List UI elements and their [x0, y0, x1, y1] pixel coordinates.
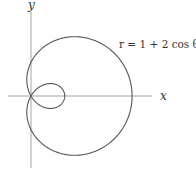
equation-label: r = 1 + 2 cos θ: [119, 38, 196, 50]
x-axis-label: x: [160, 89, 167, 103]
y-axis-label: y: [27, 0, 35, 12]
limacon-diagram: x y r = 1 + 2 cos θ: [0, 0, 196, 172]
